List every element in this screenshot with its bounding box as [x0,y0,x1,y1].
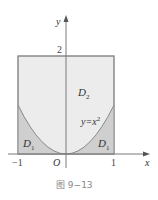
x-axis-label: x [144,157,150,168]
y-axis-label: y [55,16,61,27]
tick-x-1: 1 [111,157,116,168]
y-axis-arrow-icon [64,15,69,22]
origin-label: O [53,157,60,168]
tick-y-2: 2 [57,44,62,55]
figure-caption: 图 9−13 [56,180,93,190]
x-axis-arrow-icon [143,152,150,157]
figure-diagram: y x O 2 −1 1 D2 D1 D1 y=x2 图 9−13 [0,0,158,200]
tick-x-neg1: −1 [12,157,23,168]
